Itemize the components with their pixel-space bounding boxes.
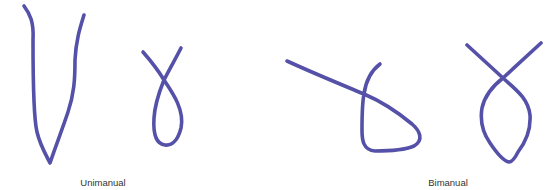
bimanual-label: Bimanual	[428, 177, 468, 188]
figure-canvas	[0, 0, 554, 190]
closed-loop-trace	[467, 43, 541, 162]
unimanual-group	[24, 6, 182, 163]
v-shape-trace	[24, 6, 84, 163]
bimanual-group	[287, 43, 541, 162]
unimanual-label: Unimanual	[80, 177, 125, 188]
small-loop-trace	[143, 48, 182, 145]
open-loop-trace	[287, 61, 420, 151]
